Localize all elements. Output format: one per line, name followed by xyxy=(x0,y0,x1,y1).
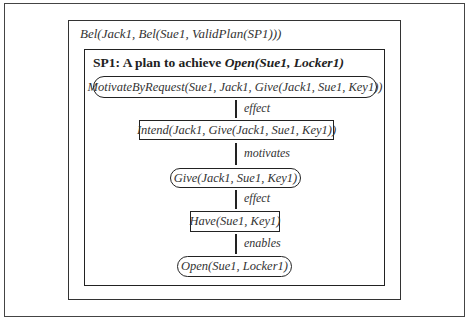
plan-goal: Open(Sue1, Locker1) xyxy=(225,55,344,70)
node-motivate-by-request: MotivateByRequest(Sue1, Jack1, Give(Jack… xyxy=(93,76,377,98)
node-intend: Intend(Jack1, Give(Jack1, Sue1, Key1)) xyxy=(139,120,334,140)
edge-label-effect-2: effect xyxy=(244,191,270,206)
edge-line-effect-2 xyxy=(235,190,237,209)
belief-label: Bel(Jack1, Bel(Sue1, ValidPlan(SP1))) xyxy=(80,26,281,42)
edge-label-effect-1: effect xyxy=(244,101,270,116)
edge-label-motivates: motivates xyxy=(244,146,290,161)
node-have: Have(Sue1, Key1) xyxy=(190,211,280,232)
plan-title: SP1: A plan to achieve Open(Sue1, Locker… xyxy=(93,55,344,71)
edge-line-motivates xyxy=(235,143,237,165)
plan-title-prefix: SP1: A plan to achieve xyxy=(93,55,225,70)
node-give: Give(Jack1, Sue1, Key1) xyxy=(170,168,301,188)
edge-label-enables: enables xyxy=(244,236,281,251)
edge-line-enables xyxy=(235,234,237,254)
edge-line-effect-1 xyxy=(235,100,237,118)
node-open: Open(Sue1, Locker1) xyxy=(177,256,292,277)
